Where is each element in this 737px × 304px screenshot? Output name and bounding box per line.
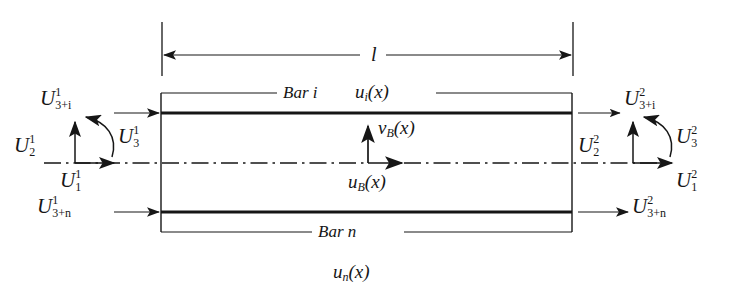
dof-subscript: 3 (691, 137, 697, 149)
dof-base: U (624, 86, 639, 110)
dof-base: U (676, 124, 691, 148)
dof-base: U (578, 133, 593, 157)
dof-superscript: 2 (639, 86, 645, 98)
dof-left-axial-bottom-label: U13+n (37, 196, 52, 217)
dof-subscript: 2 (29, 146, 35, 158)
right-node-dof-glyph (633, 117, 672, 163)
ub-subscript: B (358, 180, 365, 194)
dof-subscript: 3 (133, 137, 139, 149)
left-node-dof-glyph (75, 117, 114, 163)
dof-base: U (37, 194, 52, 218)
dof-superscript: 2 (691, 124, 697, 136)
bar-i-label: Bar i (278, 84, 322, 101)
u-arg: (x) (368, 81, 389, 102)
center-vertical-displacement-label: vB(x) (378, 118, 415, 139)
v-arg: (x) (394, 117, 415, 138)
length-dimension-label: l (364, 44, 384, 64)
ub-base: u (348, 171, 358, 192)
dof-base: U (676, 168, 691, 192)
diagram-canvas: l Bar i ui(x) Bar n vB(x) uB(x) un(x) U1… (0, 0, 737, 304)
center-horizontal-displacement-label: uB(x) (348, 172, 386, 193)
dof-superscript: 1 (55, 86, 61, 98)
dof-base: U (40, 86, 55, 110)
dof-left-axial-top-label: U13+i (40, 88, 55, 109)
dof-right-vertical-label: U22 (578, 135, 593, 156)
dof-superscript: 2 (593, 133, 599, 145)
dof-subscript: 3+i (639, 99, 655, 111)
dof-superscript: 1 (133, 124, 139, 136)
dof-subscript: 3+n (647, 207, 666, 219)
dof-superscript: 1 (75, 168, 81, 180)
dof-left-vertical-label: U12 (14, 135, 29, 156)
dof-left-horizontal-label: U11 (60, 170, 75, 191)
dof-right-axial-top-label: U23+i (624, 88, 639, 109)
dof-left-rotation-label: U13 (118, 126, 133, 147)
ub-arg: (x) (365, 171, 386, 192)
dof-subscript: 2 (593, 146, 599, 158)
un-base: u (333, 261, 343, 282)
dof-base: U (14, 133, 29, 157)
dof-subscript: 3+i (55, 99, 71, 111)
dof-superscript: 2 (691, 168, 697, 180)
figure-caption: un(x) (333, 262, 370, 283)
dof-right-axial-bottom-label: U23+n (632, 196, 647, 217)
u-base: u (355, 81, 365, 102)
v-subscript: B (386, 126, 393, 140)
dof-subscript: 1 (691, 181, 697, 193)
dof-base: U (118, 124, 133, 148)
bar-i-displacement-label: ui(x) (350, 82, 394, 103)
un-arg: (x) (349, 261, 370, 282)
bar-n-label: Bar n (313, 223, 361, 240)
dof-right-horizontal-label: U21 (676, 170, 691, 191)
dof-superscript: 2 (647, 194, 653, 206)
dof-base: U (60, 168, 75, 192)
dof-superscript: 1 (29, 133, 35, 145)
dof-subscript: 3+n (52, 207, 71, 219)
dof-right-rotation-label: U23 (676, 126, 691, 147)
dof-superscript: 1 (52, 194, 58, 206)
dof-subscript: 1 (75, 181, 81, 193)
dof-base: U (632, 194, 647, 218)
